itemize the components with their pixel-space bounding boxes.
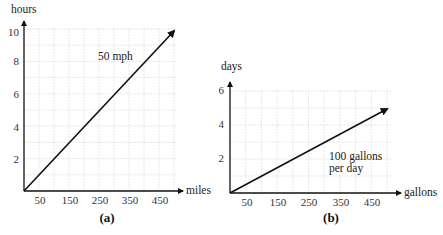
chart-a-xtick: 50 — [35, 194, 47, 206]
chart-a-ytick: 6 — [14, 88, 20, 100]
chart-a-xtick: 350 — [122, 194, 139, 206]
chart-a-ytick: 8 — [14, 55, 20, 67]
chart-a-annotation: 50 mph — [98, 50, 133, 63]
chart-b-ylabel: days — [221, 60, 243, 73]
chart-a-xtick: 250 — [92, 194, 109, 206]
chart-b-ytick: 4 — [219, 118, 225, 130]
chart-b-xtick: 250 — [301, 196, 318, 208]
chart-b-xtick: 450 — [364, 196, 381, 208]
chart-b-grid — [230, 90, 392, 193]
chart-a-ytick: 10 — [8, 26, 20, 38]
chart-b-xlabel: gallons — [404, 186, 438, 199]
chart-b-xtick: 50 — [242, 196, 254, 208]
chart-a: hours miles 50 mph 2 4 6 8 10 50 150 250… — [8, 3, 211, 225]
chart-b-xtick: 150 — [270, 196, 287, 208]
chart-b-annotation-line2: per day — [329, 162, 363, 175]
chart-a-ytick: 4 — [14, 121, 20, 133]
chart-a-xlabel: miles — [186, 184, 211, 196]
chart-a-caption: (a) — [99, 210, 114, 225]
chart-b-caption: (b) — [323, 210, 339, 225]
chart-b-ytick: 6 — [219, 84, 225, 96]
figure: hours miles 50 mph 2 4 6 8 10 50 150 250… — [0, 0, 443, 235]
chart-a-xtick: 450 — [152, 194, 169, 206]
chart-b-xtick: 350 — [333, 196, 350, 208]
chart-a-ytick: 2 — [14, 153, 20, 165]
chart-b-ytick: 2 — [219, 152, 225, 164]
chart-a-xtick: 150 — [62, 194, 79, 206]
chart-a-ylabel: hours — [11, 3, 37, 15]
chart-b: days gallons 100 gallons per day 2 4 6 5… — [219, 60, 438, 225]
